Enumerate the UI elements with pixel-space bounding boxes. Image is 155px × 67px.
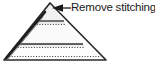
callout-label: Remove stitching. (71, 1, 155, 14)
figure-container: Remove stitching. (0, 0, 155, 67)
